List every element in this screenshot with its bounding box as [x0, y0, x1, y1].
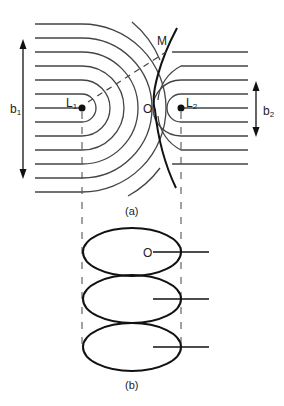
caption-b: (b) [125, 379, 138, 391]
right-field-lines [153, 52, 248, 164]
point-l2 [178, 105, 185, 112]
caption-a: (a) [125, 205, 138, 217]
label-m: M [157, 34, 167, 48]
label-o-b: O [143, 246, 152, 260]
label-b1: b1 [10, 102, 22, 117]
b2-arrow [253, 81, 260, 137]
label-l2: L2 [186, 96, 198, 111]
point-l1 [79, 105, 86, 112]
label-o-a: O [143, 102, 152, 116]
label-l1: L1 [66, 96, 78, 111]
figure-diagram: b1 b2 L1 L2 O M (a) O (b) [0, 0, 284, 406]
label-b2: b2 [263, 104, 275, 119]
